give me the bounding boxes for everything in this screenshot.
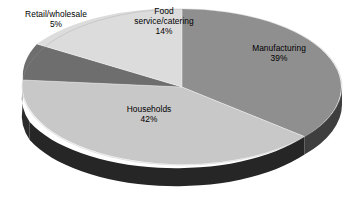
slice-label-manufacturing-value: 39% [222, 53, 336, 63]
slice-label-foodservice-name-line2: service/catering [114, 16, 214, 26]
slice-label-foodservice-name-line1: Food [114, 6, 214, 16]
slice-label-households-value: 42% [92, 114, 206, 124]
slice-label-foodservice-value: 14% [114, 26, 214, 36]
slice-label-retail: Retail/wholesale 5% [2, 9, 110, 29]
slice-label-manufacturing: Manufacturing 39% [222, 43, 336, 63]
slice-label-foodservice: Food service/catering 14% [114, 6, 214, 37]
slice-label-manufacturing-name: Manufacturing [222, 43, 336, 53]
slice-label-households-name: Households [92, 104, 206, 114]
slice-label-households: Households 42% [92, 104, 206, 124]
slice-label-retail-value: 5% [2, 19, 110, 29]
pie-chart: Manufacturing 39% Households 42% Retail/… [0, 0, 363, 198]
slice-label-retail-name: Retail/wholesale [2, 9, 110, 19]
